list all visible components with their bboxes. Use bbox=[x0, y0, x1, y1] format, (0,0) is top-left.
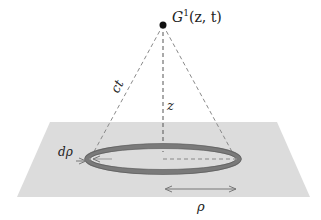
ring-width-label: dρ bbox=[58, 145, 73, 159]
slant-label: ct bbox=[107, 77, 126, 96]
radius-label: ρ bbox=[196, 199, 205, 214]
point-label: G1(z, t) bbox=[172, 8, 222, 25]
source-point bbox=[160, 22, 167, 29]
height-label: z bbox=[166, 98, 174, 113]
green-function-diagram: G1(z, t) ct z dρ ρ bbox=[0, 0, 321, 220]
